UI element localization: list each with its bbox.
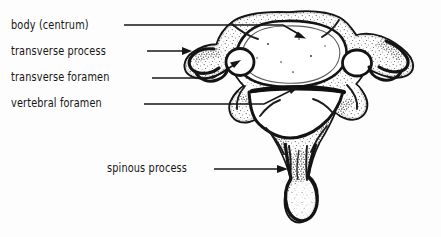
anatomy-figure: body (centrum) transverse process transv… [0, 0, 441, 237]
leader-spinous-process [214, 165, 288, 173]
label-transverse-foramen: transverse foramen [11, 72, 109, 83]
label-body-centrum: body (centrum) [11, 20, 89, 31]
vertebra-illustration [0, 0, 441, 237]
right-transverse-foramen [343, 50, 372, 76]
label-transverse-process: transverse process [11, 46, 106, 57]
label-spinous-process: spinous process [107, 163, 187, 174]
leader-transverse-process [147, 47, 192, 55]
left-transverse-foramen [226, 49, 254, 76]
label-vertebral-foramen: vertebral foramen [11, 98, 102, 109]
